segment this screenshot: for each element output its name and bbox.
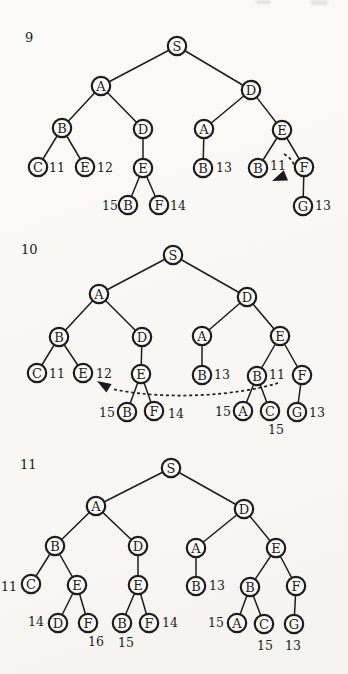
fig11-node-F1: F <box>79 614 97 632</box>
fig11-node-B2: B <box>113 614 131 632</box>
node-letter: B <box>117 616 127 631</box>
fig10-edge-S-A1 <box>99 255 173 294</box>
fig9-node-S: S <box>168 37 186 55</box>
fig10-node-S: S <box>164 246 182 264</box>
fig11-node-B1: B <box>46 537 64 555</box>
figure-number-9: 9 <box>25 30 33 45</box>
fig9-node-D2: D <box>134 120 152 138</box>
fig10-node-E1: E <box>74 364 92 382</box>
node-letter: E <box>138 161 148 176</box>
node-letter: B <box>54 330 64 345</box>
fig10-cost-2: 15 <box>99 405 115 420</box>
node-letter: D <box>53 616 63 631</box>
figure-10: SADBDCEEBFAEBBFACG111215141311151513 <box>28 246 325 438</box>
fig9-node-B2: B <box>119 196 137 214</box>
fig10-node-G1: G <box>288 403 306 421</box>
fig11-node-B3: B <box>187 577 205 595</box>
fig9-node-F2: F <box>295 158 313 176</box>
node-letter: A <box>190 541 201 556</box>
node-letter: S <box>169 248 178 263</box>
fig10-node-E3: E <box>271 327 289 345</box>
fig11-node-C2: C <box>255 615 273 633</box>
fig10-node-F2: F <box>293 366 311 384</box>
node-letter: F <box>144 616 153 631</box>
fig11-node-S: S <box>162 459 180 477</box>
figure-number-10: 10 <box>21 242 38 257</box>
node-letter: E <box>72 578 82 593</box>
fig10-node-B4: B <box>248 367 266 385</box>
fig10-cost-7: 15 <box>268 422 284 437</box>
fig9-cost-3: 14 <box>170 198 186 213</box>
fig9-node-A1: A <box>92 77 110 95</box>
fig9-node-E3: E <box>273 121 291 139</box>
fig11-node-D3: D <box>49 614 67 632</box>
fig9-cost-2: 15 <box>102 198 118 213</box>
fig9-cost-4: 13 <box>216 160 232 175</box>
node-letter: S <box>173 39 182 54</box>
fig11-cost-6: 15 <box>208 615 224 630</box>
node-letter: C <box>26 577 36 592</box>
fig10-node-A1: A <box>90 285 108 303</box>
fig11-node-F2: F <box>140 614 158 632</box>
fig10-node-B2: B <box>118 403 136 421</box>
fig10-node-B1: B <box>50 328 68 346</box>
figure-number-11: 11 <box>20 457 37 472</box>
node-letter: A <box>198 122 209 137</box>
fig11-node-G1: G <box>285 615 303 633</box>
node-letter: C <box>265 404 275 419</box>
fig11-node-C1: C <box>22 575 40 593</box>
fig11-node-D1: D <box>235 500 253 518</box>
node-letter: A <box>90 499 101 514</box>
fig9-cost-6: 13 <box>315 198 331 213</box>
node-letter: D <box>137 330 147 345</box>
node-letter: S <box>167 461 176 476</box>
node-letter: D <box>246 83 256 98</box>
fig11-cost-0: 11 <box>1 579 17 594</box>
node-letter: B <box>198 161 208 176</box>
figure-9: SADBDCEEBFAEBBFG11121514131113 <box>29 37 331 215</box>
node-letter: E <box>133 578 143 593</box>
node-letter: D <box>138 122 148 137</box>
fig10-node-D2: D <box>133 328 151 346</box>
fig9-node-G1: G <box>294 197 312 215</box>
fig11-node-E2: E <box>129 576 147 594</box>
node-letter: B <box>122 405 132 420</box>
fig9-node-E2: E <box>134 159 152 177</box>
node-letter: B <box>197 368 207 383</box>
fig11-cost-2: 16 <box>88 634 104 649</box>
node-letter: F <box>149 404 158 419</box>
fig11-node-B4: B <box>241 578 259 596</box>
fig10-cost-6: 15 <box>215 404 231 419</box>
node-letter: D <box>133 539 143 554</box>
fig11-node-D2: D <box>129 537 147 555</box>
backup-arrowhead-icon <box>97 381 112 393</box>
node-letter: A <box>93 287 104 302</box>
node-letter: A <box>95 79 106 94</box>
node-letter: C <box>259 617 269 632</box>
fig9-cost-0: 11 <box>49 160 65 175</box>
fig9-node-A2: A <box>195 120 213 138</box>
node-letter: G <box>298 199 308 214</box>
fig10-node-C2: C <box>261 402 279 420</box>
fig9-node-B1: B <box>53 119 71 137</box>
node-letter: C <box>33 160 43 175</box>
node-letter: B <box>123 198 133 213</box>
fig10-node-C1: C <box>28 364 46 382</box>
node-letter: B <box>191 579 201 594</box>
fig10-node-A2: A <box>193 327 211 345</box>
node-letter: E <box>271 541 281 556</box>
fig11-node-F3: F <box>287 577 305 595</box>
fig11-node-A3: A <box>228 614 246 632</box>
fig10-cost-4: 13 <box>214 367 230 382</box>
node-letter: D <box>242 290 252 305</box>
fig11-cost-5: 13 <box>209 578 225 593</box>
node-letter: E <box>277 123 287 138</box>
fig11-cost-8: 13 <box>285 638 301 653</box>
node-letter: E <box>136 367 146 382</box>
fig10-cost-3: 14 <box>168 406 184 421</box>
node-letter: F <box>297 368 306 383</box>
node-letter: D <box>239 502 249 517</box>
node-letter: F <box>299 160 308 175</box>
node-letter: E <box>80 160 90 175</box>
node-letter: A <box>231 616 242 631</box>
